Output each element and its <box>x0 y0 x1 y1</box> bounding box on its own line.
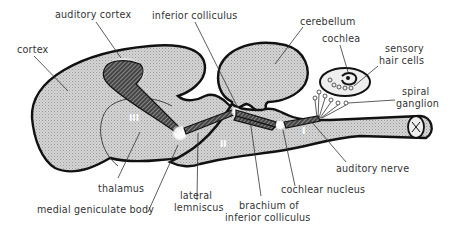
sensory-hair-cells-label-line2: hair cells <box>379 55 424 66</box>
auditory-cortex-label: auditory cortex <box>55 9 131 20</box>
medial-geniculate-body-label: medial geniculate body <box>37 204 154 215</box>
cerebellum-outline <box>218 43 308 112</box>
thalamus-label: thalamus <box>98 183 144 194</box>
sensory-hair-cells-label-line1: sensory <box>385 43 424 54</box>
cochlea-label: cochlea <box>322 33 360 44</box>
auditory-pathway-diagram: III II I auditory cortex inferior collic… <box>0 0 451 234</box>
inferior-colliculus-label: inferior colliculus <box>152 10 238 21</box>
cochlear-nucleus-label: cochlear nucleus <box>281 184 365 195</box>
auditory-nerve-label: auditory nerve <box>336 163 409 174</box>
stage-two-label: II <box>220 139 227 149</box>
stage-one-label: I <box>302 126 305 136</box>
cortex-label: cortex <box>17 44 49 55</box>
lateral-lemniscus-label-line1: lateral <box>180 190 212 201</box>
cerebellum-label: cerebellum <box>300 16 356 27</box>
brachium-label-line2: inferior colliculus <box>225 212 311 223</box>
spiral-ganglion-label-line2: ganglion <box>396 98 439 109</box>
lateral-lemniscus-label-line2: lemniscus <box>174 202 224 213</box>
stage-three-label: III <box>129 113 139 123</box>
spiral-ganglion-label-line1: spiral <box>402 86 429 97</box>
brachium-label-line1: brachium of <box>239 200 299 211</box>
cochlea-outline <box>320 68 370 96</box>
